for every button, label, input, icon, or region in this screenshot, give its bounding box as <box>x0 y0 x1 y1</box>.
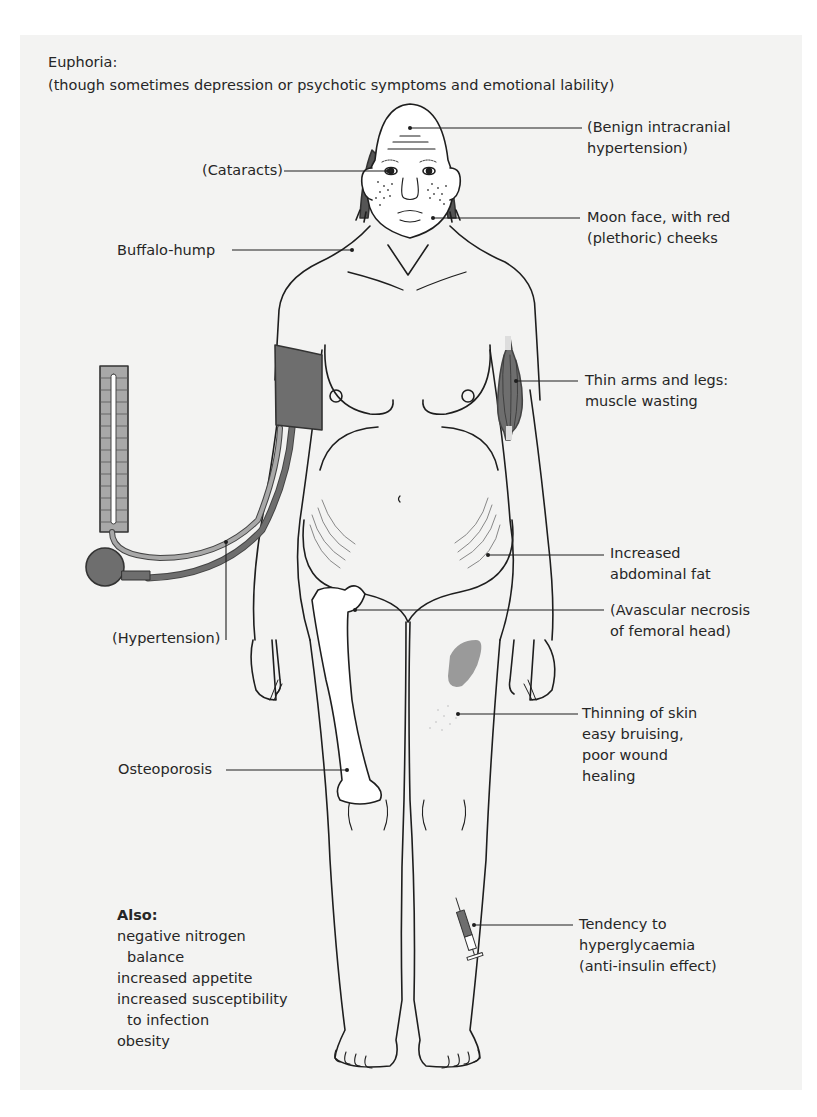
also-item: increased susceptibility <box>117 989 288 1010</box>
also-item: to infection <box>117 1010 288 1031</box>
bruise-icon <box>448 640 481 687</box>
arms <box>251 640 555 700</box>
label-hyperglycaemia: Tendency to hyperglycaemia (anti-insulin… <box>579 914 717 977</box>
label-cataracts: (Cataracts) <box>202 160 283 181</box>
label-abdominal-fat: Increased abdominal fat <box>610 543 711 585</box>
label-intracranial-hypertension: (Benign intracranial hypertension) <box>587 117 730 159</box>
abdominal-striae-icon <box>310 498 500 568</box>
label-thin-arms: Thin arms and legs: muscle wasting <box>585 370 728 412</box>
also-item: negative nitrogen <box>117 926 288 947</box>
wasted-muscle-icon <box>498 336 523 440</box>
label-osteoporosis: Osteoporosis <box>118 759 212 780</box>
label-avascular-necrosis: (Avascular necrosis of femoral head) <box>610 600 750 642</box>
label-moon-face: Moon face, with red (plethoric) cheeks <box>587 207 730 249</box>
also-list: Also: negative nitrogen balance increase… <box>117 905 288 1052</box>
label-skin-thinning: Thinning of skin easy bruising, poor wou… <box>582 703 697 787</box>
thin-skin-stipple-icon <box>429 705 457 731</box>
sphygmomanometer-icon <box>86 345 322 586</box>
label-buffalo-hump: Buffalo-hump <box>117 240 215 261</box>
also-item: obesity <box>117 1031 288 1052</box>
also-item: increased appetite <box>117 968 288 989</box>
header-subtitle: (though sometimes depression or psychoti… <box>48 75 614 96</box>
also-heading: Also: <box>117 905 288 926</box>
label-hypertension: (Hypertension) <box>112 628 220 649</box>
also-item: balance <box>117 947 288 968</box>
header-title: Euphoria: <box>48 52 117 73</box>
